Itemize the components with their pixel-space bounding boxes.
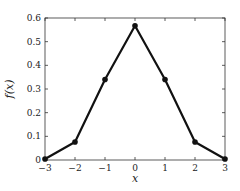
data-line [45, 26, 225, 159]
y-tick-label: 0.2 [27, 108, 41, 118]
y-tick-label: 0.1 [27, 131, 41, 141]
data-point [192, 139, 198, 145]
y-tick-label: 0.5 [27, 37, 42, 47]
data-point [42, 156, 48, 162]
data-point [222, 156, 228, 162]
x-tick-label: −1 [98, 163, 111, 173]
y-tick-label: 0.4 [27, 60, 42, 70]
data-point [132, 23, 138, 29]
x-tick-label: 2 [192, 163, 198, 173]
data-point [102, 77, 108, 83]
data-point [162, 77, 168, 83]
y-tick-label: 0.6 [27, 13, 42, 23]
y-tick-label: 0.3 [27, 84, 42, 94]
x-tick-label: 3 [222, 163, 228, 173]
y-tick-label: 0 [35, 155, 41, 165]
x-tick-label: −2 [68, 163, 81, 173]
y-axis-label: f(x) [3, 80, 16, 100]
line-chart: −3−2−1012300.10.20.30.40.50.6xf(x) [0, 0, 240, 191]
x-axis-label: x [132, 172, 139, 185]
plot-frame [45, 18, 225, 160]
data-point [72, 139, 78, 145]
x-tick-label: 1 [162, 163, 168, 173]
